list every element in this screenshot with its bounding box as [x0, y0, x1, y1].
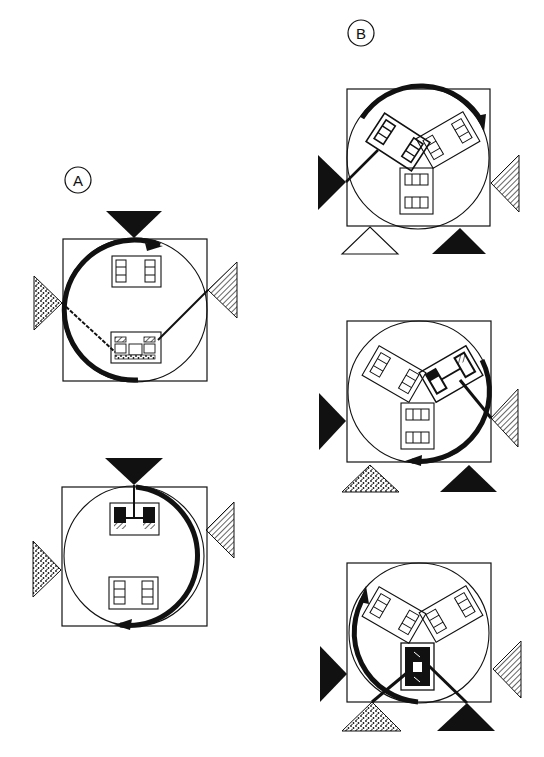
svg-text:B: B: [356, 25, 366, 42]
holder-upper-right: [419, 586, 483, 642]
panel-b2: [319, 321, 518, 492]
source-dotted-left: [34, 276, 62, 330]
diagram-canvas: A B: [0, 0, 544, 757]
source-dotted-bottom-left: [342, 465, 399, 492]
source-black-top: [106, 211, 162, 238]
source-black-top: [105, 458, 163, 485]
source-black-left: [319, 393, 346, 450]
holder-upper-left: [362, 587, 426, 643]
source-black-left: [318, 155, 346, 210]
holder-center: [401, 403, 434, 449]
source-hatched-right: [491, 155, 519, 212]
source-dotted-left: [33, 541, 61, 597]
svg-text:A: A: [73, 172, 83, 189]
source-hatched-right: [206, 502, 234, 558]
source-black-bottom-right: [432, 228, 486, 254]
panel-a1: [34, 211, 237, 382]
panel-b1: [318, 86, 519, 254]
holder-upper-right-active: [419, 346, 483, 402]
holder-center: [400, 168, 433, 214]
source-black-bottom-right: [437, 703, 495, 731]
source-dotted-bottom-left: [342, 702, 401, 731]
source-hatched-right: [493, 641, 521, 698]
panel-b3: [320, 563, 521, 731]
holder-upper-left: [362, 346, 426, 402]
panel-a2: [33, 458, 234, 630]
holder-bottom-active: [111, 332, 161, 363]
source-open-bottom-left: [342, 227, 398, 254]
holder-bottom: [109, 577, 158, 609]
label-a: A: [65, 167, 91, 193]
holder-upper-left-active: [366, 113, 430, 171]
source-black-bottom-right: [440, 465, 497, 492]
holder-top: [112, 256, 161, 287]
label-b: B: [348, 20, 374, 46]
source-hatched-right: [208, 262, 237, 318]
source-black-left: [320, 646, 347, 702]
source-hatched-right: [491, 389, 518, 447]
